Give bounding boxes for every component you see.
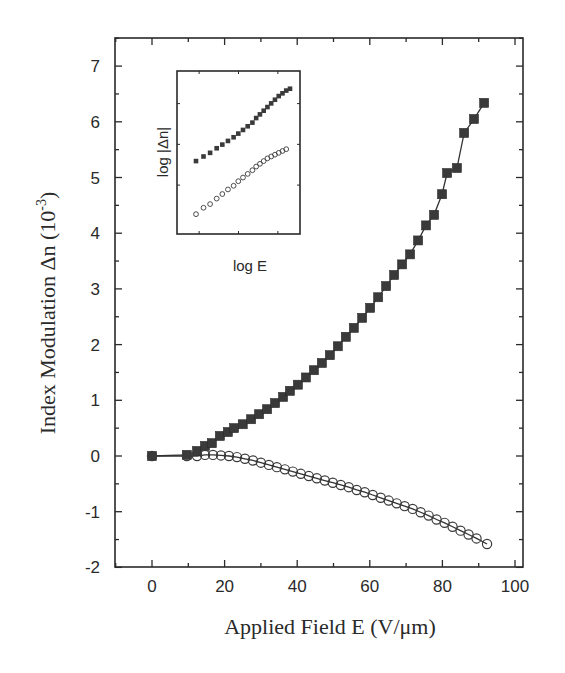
inset-data-point-square <box>288 86 293 91</box>
data-point-square <box>414 236 423 245</box>
inset-data-point-square <box>245 124 250 129</box>
inset-data-point-square <box>231 135 236 140</box>
y-tick-label: -1 <box>85 503 100 522</box>
data-point-square <box>366 303 375 312</box>
inset-data-point-square <box>194 159 199 164</box>
inset-data-point-square <box>236 131 241 136</box>
data-point-square <box>341 332 350 341</box>
x-tick-label: 40 <box>288 577 307 596</box>
data-point-square <box>207 439 216 448</box>
data-point-square <box>480 98 489 107</box>
data-point-square <box>406 250 415 259</box>
y-axis-title-close: ) <box>35 192 60 199</box>
inset-data-point-square <box>220 142 225 147</box>
data-point-square <box>215 431 224 440</box>
y-tick-label: 5 <box>91 169 100 188</box>
y-tick-label: 0 <box>91 447 100 466</box>
x-tick-label: 0 <box>147 577 156 596</box>
y-axis-title: Index Modulation Δn (10-3) <box>34 192 60 435</box>
x-tick-label: 60 <box>360 577 379 596</box>
y-tick-label: -2 <box>85 558 100 577</box>
inset-data-point-square <box>241 128 246 133</box>
y-axis-title-main: Index Modulation Δn (10 <box>35 211 60 435</box>
x-axis-title: Applied Field E (V/μm) <box>224 614 436 639</box>
data-point-square <box>309 366 318 375</box>
data-point-square <box>271 399 280 408</box>
data-point-square <box>238 420 247 429</box>
data-point-square <box>349 323 358 332</box>
y-tick-label: 3 <box>91 280 100 299</box>
y-tick-label: 4 <box>91 224 100 243</box>
data-point-square <box>301 373 310 382</box>
data-point-square <box>285 386 294 395</box>
data-point-square <box>317 358 326 367</box>
x-tick-label: 80 <box>433 577 452 596</box>
inset-data-point-square <box>208 151 213 156</box>
data-point-square <box>430 210 439 219</box>
data-point-square <box>255 410 264 419</box>
data-point-square <box>382 282 391 291</box>
inset-data-point-square <box>214 146 219 151</box>
data-point-square <box>374 293 383 302</box>
data-point-square <box>263 405 272 414</box>
data-point-square <box>247 415 256 424</box>
data-point-square <box>443 169 452 178</box>
y-tick-label: 7 <box>91 57 100 76</box>
x-tick-label: 20 <box>215 577 234 596</box>
data-point-square <box>438 190 447 199</box>
y-tick-label: 1 <box>91 391 100 410</box>
data-point-square <box>398 260 407 269</box>
inset-y-axis-title: log |Δn| <box>154 127 171 177</box>
x-tick-label: 100 <box>501 577 529 596</box>
data-point-square <box>390 270 399 279</box>
data-point-square <box>325 351 334 360</box>
inset-plot <box>177 71 300 234</box>
data-point-square <box>333 342 342 351</box>
chart: 020406080100 -2-101234567 Applied Field … <box>0 0 565 673</box>
inset-data-point-square <box>250 120 255 125</box>
data-point-square <box>293 380 302 389</box>
inset-data-point-square <box>201 154 206 159</box>
data-point-square <box>460 128 469 137</box>
inset-x-axis-title: log E <box>233 257 267 274</box>
y-tick-label: 2 <box>91 336 100 355</box>
y-tick-label: 6 <box>91 113 100 132</box>
inset-data-point-square <box>226 139 231 144</box>
data-point-square <box>422 221 431 230</box>
data-point-square <box>230 424 239 433</box>
data-point-square <box>452 164 461 173</box>
data-point-square <box>469 115 478 124</box>
y-axis-title-exponent: -3 <box>34 199 49 211</box>
data-point-square <box>358 313 367 322</box>
